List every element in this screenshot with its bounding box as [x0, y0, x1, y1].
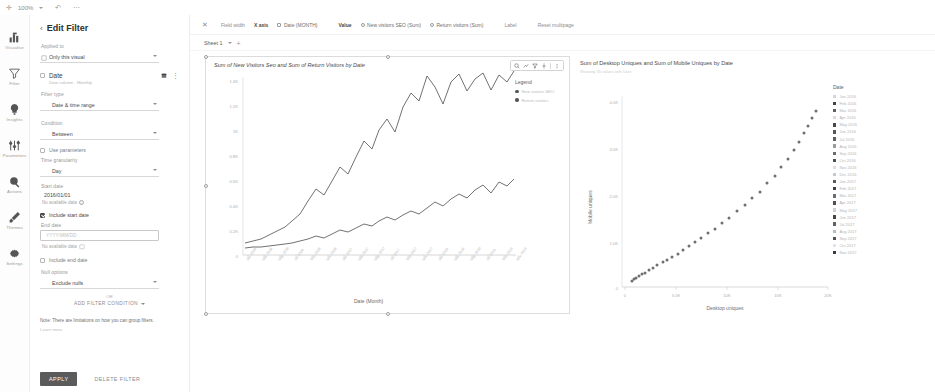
value-field-chip-1[interactable]: New visitors SEO (Sum)	[361, 22, 421, 28]
learn-more-link[interactable]: Learn more	[40, 327, 179, 332]
add-filter-condition-label: ADD FILTER CONDITION	[74, 301, 138, 306]
tab-sheet-1[interactable]: Sheet 1	[204, 40, 223, 46]
legend-item[interactable]: New visitors SEO	[515, 89, 563, 94]
field-width-label[interactable]: Field width	[221, 22, 245, 28]
undo-icon[interactable]: ↶	[55, 4, 61, 12]
legend-swatch	[515, 98, 519, 102]
svg-text:May 2017: May 2017	[374, 246, 386, 261]
value-field-chip-2[interactable]: Return visitors (Sum)	[430, 22, 483, 28]
legend-swatch	[515, 90, 519, 94]
filter-type-select[interactable]: Date & time range	[40, 99, 159, 111]
filter-type-value: Date & time range	[49, 102, 95, 108]
kebab-menu-icon[interactable]	[554, 63, 560, 69]
svg-text:May 2016: May 2016	[278, 246, 290, 261]
legend-label: Dec 2016	[839, 172, 856, 177]
use-parameters-checkbox[interactable]	[40, 148, 45, 153]
svg-text:0: 0	[624, 293, 627, 298]
svg-text:15K: 15K	[774, 293, 782, 298]
sidebar-label: Visualise	[5, 45, 23, 50]
left-icon-rail: Visualise Filter Insights Parameters Act…	[0, 15, 30, 392]
legend-label: Aug 2016	[839, 144, 856, 149]
end-date-hint: No available data	[42, 243, 179, 250]
condition-select[interactable]: Between	[40, 128, 159, 140]
plus-icon[interactable]: ✛	[6, 4, 12, 12]
start-date-value[interactable]: 2016/01/01	[44, 192, 179, 198]
chevron-left-icon[interactable]: ‹	[40, 24, 43, 33]
sidebar-label: Settings	[6, 261, 23, 266]
chevron-down-icon[interactable]	[39, 7, 43, 9]
null-options-label: Null options	[41, 270, 179, 275]
add-sheet-button[interactable]: +	[237, 40, 241, 47]
funnel-icon[interactable]	[532, 63, 538, 69]
gear-icon	[8, 247, 21, 260]
sidebar-item-parameters[interactable]: Parameters	[0, 139, 30, 158]
svg-text:Jan 2018: Jan 2018	[438, 247, 450, 261]
trend-icon[interactable]	[523, 63, 529, 69]
kebab-menu-icon[interactable]: ⋮	[172, 73, 179, 78]
metric-icon	[361, 23, 365, 27]
sidebar-label: Themes	[6, 225, 22, 230]
use-parameters-label: Use parameters	[49, 147, 86, 153]
include-start-checkbox[interactable]	[40, 213, 45, 218]
end-date-input[interactable]: YYYY/MM/DD	[40, 230, 159, 241]
legend-label: May 2017	[839, 208, 857, 213]
value-label: Value	[339, 22, 352, 28]
scatter-chart-title: Sum of Desktop Uniques and Sum of Mobile…	[580, 60, 733, 66]
panel-header: ‹ Edit Filter	[40, 23, 179, 33]
sidebar-item-settings[interactable]: Settings	[0, 247, 30, 266]
divider	[550, 63, 551, 69]
apply-button[interactable]: APPLY	[40, 372, 77, 386]
sidebar-item-insights[interactable]: Insights	[0, 103, 30, 122]
funnel-icon	[8, 67, 21, 80]
svg-text:20K: 20K	[824, 293, 832, 298]
sidebar-label: Parameters	[3, 153, 27, 158]
applied-to-select[interactable]: Only this visual	[40, 51, 159, 63]
sidebar-item-visualise[interactable]: Visualise	[0, 31, 30, 50]
legend-label: Nov 2017	[839, 250, 856, 255]
sidebar-item-themes[interactable]: Themes	[0, 211, 30, 230]
zoom-level[interactable]: 100%	[18, 5, 33, 11]
resize-handle-bm[interactable]	[386, 312, 390, 316]
chart-icon	[41, 55, 47, 61]
filter-data-icon[interactable]	[514, 63, 520, 69]
include-end-checkbox[interactable]	[40, 258, 45, 263]
svg-text:1.0K: 1.0K	[609, 241, 618, 246]
settings-icon[interactable]	[541, 63, 547, 69]
page-title: Edit Filter	[47, 23, 89, 33]
time-granularity-select[interactable]: Day	[40, 165, 159, 177]
svg-text:3.0K: 3.0K	[609, 147, 618, 152]
resize-handle-tl[interactable]	[204, 55, 208, 59]
sidebar-item-actions[interactable]: Actions	[0, 175, 30, 194]
reset-multipage-button[interactable]: Reset multipage	[538, 22, 574, 28]
include-end-label: Include end date	[49, 257, 87, 263]
legend-label: Nov 2016	[839, 165, 856, 170]
add-filter-condition-button[interactable]: ADD FILTER CONDITION	[40, 301, 179, 306]
calendar-icon[interactable]	[161, 72, 167, 79]
filter-field-row[interactable]: Date ⋮	[40, 72, 179, 79]
condition-label: Condition	[41, 121, 179, 126]
resize-handle-bl[interactable]	[204, 312, 208, 316]
legend-item[interactable]: Return visitors	[515, 98, 563, 103]
sidebar-item-filter[interactable]: Filter	[0, 67, 30, 86]
x-axis-field-chip[interactable]: Date (MONTH)	[277, 22, 317, 28]
resize-handle-ml[interactable]	[204, 184, 208, 188]
legend-label: May 2016	[839, 122, 857, 127]
chevron-down-icon	[153, 169, 157, 171]
scatter-chart-card[interactable]: Sum of Desktop Uniques and Sum of Mobile…	[578, 56, 883, 314]
x-axis-label: X axis	[254, 22, 268, 28]
label-label[interactable]: Label	[504, 22, 516, 28]
close-icon[interactable]: ✕	[202, 21, 208, 29]
svg-text:0.4K: 0.4K	[229, 204, 238, 209]
line-chart-card[interactable]: Sum of New Visitors Seo and Sum of Retur…	[205, 56, 570, 314]
chevron-down-icon	[153, 281, 157, 283]
svg-text:Sep 2017: Sep 2017	[406, 247, 418, 262]
svg-text:0: 0	[616, 286, 619, 291]
null-options-select[interactable]: Exclude nulls	[40, 277, 159, 289]
more-icon[interactable]: ⋯	[73, 4, 80, 12]
field-checkbox[interactable]	[40, 73, 45, 78]
cursor-click-icon	[8, 175, 21, 188]
end-date-label: End date	[41, 223, 179, 228]
resize-handle-tm[interactable]	[386, 55, 390, 59]
chevron-down-icon[interactable]	[228, 42, 232, 44]
delete-filter-button[interactable]: DELETE FILTER	[88, 375, 146, 383]
